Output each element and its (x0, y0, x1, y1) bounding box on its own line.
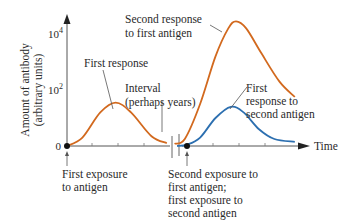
first-response-annotation: First response (84, 57, 148, 70)
svg-text:to antigen: to antigen (62, 181, 108, 194)
y-tick-0: 0 (56, 140, 62, 152)
y-tick-10000: 104 (48, 26, 63, 40)
svg-text:Interval: Interval (125, 82, 161, 94)
svg-text:Second exposure to: Second exposure to (168, 168, 258, 181)
svg-text:second antigen: second antigen (168, 207, 237, 220)
second-response-annotation: Second response to first antigen (125, 13, 202, 40)
second-exposure-arrow-icon (185, 151, 189, 166)
svg-text:First exposure: First exposure (62, 168, 127, 181)
second-exposure-dot (184, 143, 190, 149)
svg-text:response to: response to (246, 95, 298, 108)
svg-text:(perhaps years): (perhaps years) (125, 96, 196, 109)
y-axis-label: Amount of antibody (arbitrary units) (19, 43, 45, 137)
first-response-second-annotation: First response to second antigen (246, 82, 315, 121)
second-exposure-annotation: Second exposure to first antigen; first … (168, 168, 258, 220)
svg-text:to first antigen: to first antigen (125, 27, 192, 40)
first-exposure-dot (64, 143, 70, 149)
second-response-leader (210, 25, 222, 32)
x-axis-arrow-icon (298, 143, 310, 150)
y-axis-label-line-1: Amount of antibody (19, 43, 32, 137)
svg-text:first exposure to: first exposure to (168, 194, 243, 207)
y-axis-arrow-icon (64, 14, 71, 24)
first-exposure-arrow-icon (65, 151, 69, 166)
svg-text:first antigen;: first antigen; (168, 181, 226, 194)
svg-text:Second response: Second response (125, 13, 202, 26)
y-axis-label-line-2: (arbitrary units) (32, 54, 45, 127)
x-axis-label: Time (314, 140, 338, 152)
svg-text:First: First (246, 82, 268, 94)
antibody-response-chart: Amount of antibody (arbitrary units) Tim… (0, 0, 341, 224)
first-exposure-annotation: First exposure to antigen (62, 168, 127, 194)
svg-text:second antigen: second antigen (246, 108, 315, 121)
first-response-leader (103, 70, 113, 109)
first-response-second-leader (230, 87, 247, 109)
y-tick-100: 102 (48, 82, 63, 96)
interval-annotation: Interval (perhaps years) (125, 82, 196, 109)
